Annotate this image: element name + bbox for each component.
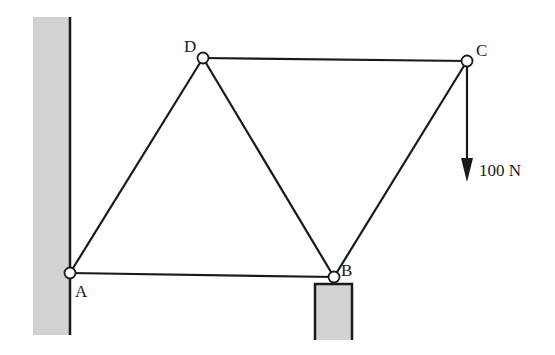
member-db bbox=[203, 58, 334, 277]
node-label-a: A bbox=[75, 283, 87, 300]
node-label-b: B bbox=[341, 262, 352, 279]
member-ab bbox=[70, 273, 334, 277]
joint-d bbox=[198, 53, 209, 64]
truss-diagram bbox=[0, 0, 555, 355]
joint-a bbox=[65, 268, 76, 279]
load-label: 100 N bbox=[479, 162, 521, 179]
block-support bbox=[315, 284, 352, 340]
node-label-c: C bbox=[476, 42, 487, 59]
node-label-d: D bbox=[184, 38, 196, 55]
member-dc bbox=[203, 58, 467, 61]
member-ad bbox=[70, 58, 203, 273]
wall-support bbox=[33, 17, 70, 335]
joint-b bbox=[329, 272, 340, 283]
load-arrow-head-icon bbox=[461, 158, 473, 182]
member-bc bbox=[334, 61, 467, 277]
joint-c bbox=[462, 56, 473, 67]
